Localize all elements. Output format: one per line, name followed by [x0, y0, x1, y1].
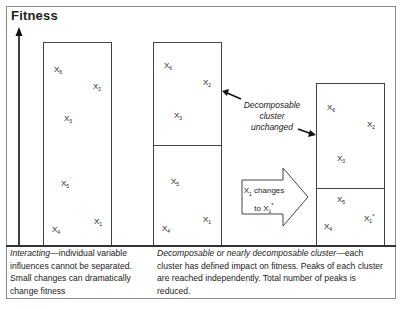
variable-x2: X2 — [93, 82, 101, 92]
variable-x4: X4 — [52, 225, 60, 235]
variable-x5: X5 — [171, 177, 179, 187]
decomposable-unchanged-annotation: Decomposable cluster unchanged — [238, 100, 306, 133]
fitness-axis-arrow-icon — [16, 27, 23, 246]
variable-x5: X5 — [337, 195, 345, 205]
variable-x3: X3 — [174, 111, 182, 121]
variable-x1: X1 — [94, 217, 102, 227]
variable-x6: X6 — [54, 65, 62, 75]
variable-x2: X2 — [367, 120, 375, 130]
variable-x3: X3 — [337, 154, 345, 164]
decomposable-cluster-box-before: X6 X2 X3 X5 X4 X1 — [153, 42, 222, 247]
variable-x4: X4 — [162, 224, 170, 234]
cluster-divider — [154, 145, 221, 146]
variable-x1: X1 — [203, 215, 211, 225]
variable-x6: X6 — [164, 61, 172, 71]
decomposable-cluster-box-after: X6 X2 X3 X5 X4 X1* — [316, 83, 385, 247]
cluster-divider — [317, 188, 384, 189]
variable-x3: X3 — [64, 114, 72, 124]
variable-x6: X6 — [327, 103, 335, 113]
caption-decomposable: Decomposable or nearly decomposable clus… — [157, 247, 389, 297]
variable-x4: X4 — [324, 222, 332, 232]
interacting-cluster-box: X6 X2 X3 X5 X4 X1 — [43, 42, 112, 247]
variable-x5: X5 — [61, 179, 69, 189]
caption-interacting: Interacting—individual variable influenc… — [10, 247, 148, 297]
change-arrow-label: X1 changes to X1* — [243, 185, 285, 217]
variable-x1-star: X1* — [364, 213, 374, 224]
variable-x2: X2 — [203, 78, 211, 88]
